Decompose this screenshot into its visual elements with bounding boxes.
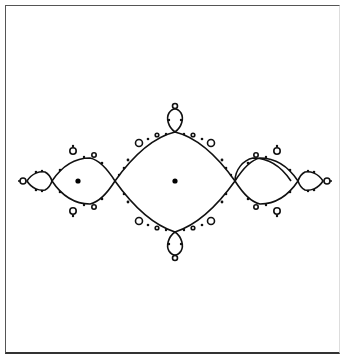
far-right-bulb <box>298 172 323 190</box>
far-right-tip <box>324 178 330 184</box>
main-bulb-center-dot <box>172 178 177 183</box>
far-left-tip <box>20 178 26 184</box>
far-left-bulb <box>27 172 52 190</box>
julia-set-diagram <box>0 0 343 360</box>
left-bulb-center-dot <box>75 178 80 183</box>
right-bulb <box>235 158 298 204</box>
bottom-tip <box>173 256 178 261</box>
top-tip <box>173 104 178 109</box>
left-bulb <box>52 158 115 204</box>
